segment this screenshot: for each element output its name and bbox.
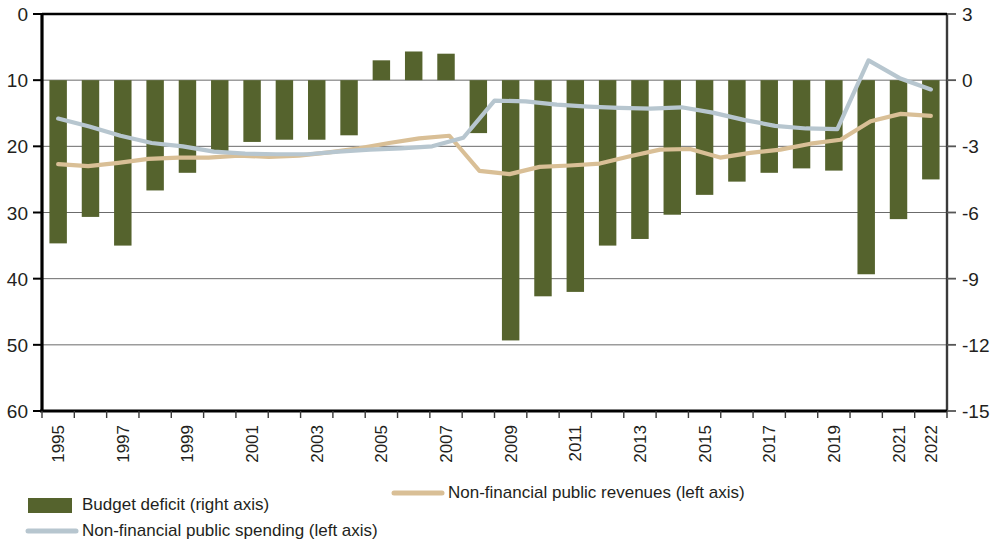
bar-2005	[373, 60, 390, 80]
x-tick-2011: 2011	[566, 425, 585, 462]
bar-2003	[308, 80, 325, 140]
bar-1998	[146, 80, 163, 190]
left-tick-40: 40	[7, 269, 28, 290]
right-axis-tick-labels: 30-3-6-9-12-15	[962, 4, 989, 422]
left-axis-tick-labels: 0102030405060	[7, 4, 28, 422]
x-tick-2001: 2001	[243, 425, 262, 463]
bar-2000	[211, 80, 228, 153]
legend-item-public_revenues[interactable]: Non-financial public revenues (left axis…	[394, 483, 745, 502]
right-tick-neg12: -12	[962, 335, 989, 356]
bar-2011	[567, 80, 584, 292]
chart-container: 0102030405060 30-3-6-9-12-15 19951997199…	[0, 0, 999, 547]
bar-2018	[793, 80, 810, 168]
left-tick-20: 20	[7, 136, 28, 157]
legend-swatch-icon	[28, 498, 72, 513]
left-tick-0: 0	[17, 4, 28, 25]
bar-2015	[696, 80, 713, 195]
x-tick-2022: 2022	[922, 425, 941, 463]
bar-2016	[728, 80, 745, 181]
x-tick-2021: 2021	[890, 425, 909, 463]
left-tick-10: 10	[7, 70, 28, 91]
bar-2009	[502, 80, 519, 340]
legend-label: Non-financial public spending (left axis…	[82, 521, 378, 540]
x-tick-2013: 2013	[631, 425, 650, 463]
x-tick-2017: 2017	[760, 425, 779, 463]
right-tick-neg6: -6	[962, 203, 979, 224]
left-tick-50: 50	[7, 335, 28, 356]
x-tick-2003: 2003	[308, 425, 327, 463]
bar-2022	[922, 80, 939, 179]
x-tick-1997: 1997	[114, 425, 133, 463]
legend-label: Budget deficit (right axis)	[82, 495, 269, 514]
bar-2001	[243, 80, 260, 142]
x-tick-2005: 2005	[372, 425, 391, 463]
budget-deficit-chart: 0102030405060 30-3-6-9-12-15 19951997199…	[0, 0, 999, 547]
x-tick-1995: 1995	[49, 425, 68, 463]
x-tick-2015: 2015	[696, 425, 715, 463]
bar-2013	[631, 80, 648, 239]
x-tick-2019: 2019	[825, 425, 844, 463]
axes	[33, 14, 956, 418]
legend-label: Non-financial public revenues (left axis…	[448, 483, 745, 502]
legend-item-budget_deficit[interactable]: Budget deficit (right axis)	[28, 495, 269, 514]
right-tick-0: 0	[962, 70, 973, 91]
x-axis-tick-labels: 1995199719992001200320052007200920112013…	[49, 425, 941, 463]
right-tick-neg9: -9	[962, 269, 979, 290]
bar-2004	[340, 80, 357, 135]
bar-2021	[890, 80, 907, 219]
x-tick-2007: 2007	[437, 425, 456, 463]
bar-series-budget-deficit	[49, 51, 939, 340]
x-tick-1999: 1999	[178, 425, 197, 463]
bar-2002	[276, 80, 293, 140]
bar-2006	[405, 51, 422, 80]
bar-1996	[82, 80, 99, 217]
left-tick-60: 60	[7, 401, 28, 422]
bar-1995	[49, 80, 66, 243]
bar-2020	[857, 80, 874, 274]
bar-2007	[437, 54, 454, 80]
legend-item-public_spending[interactable]: Non-financial public spending (left axis…	[28, 521, 378, 540]
right-tick-neg15: -15	[962, 401, 989, 422]
x-tick-2009: 2009	[502, 425, 521, 463]
gridlines	[42, 14, 947, 411]
right-tick-neg3: -3	[962, 136, 979, 157]
chart-legend: Budget deficit (right axis)Non-financial…	[28, 483, 745, 540]
left-tick-30: 30	[7, 203, 28, 224]
bar-2010	[534, 80, 551, 296]
right-tick-3: 3	[962, 4, 973, 25]
